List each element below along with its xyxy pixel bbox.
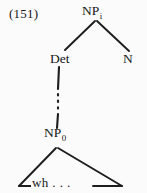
- tree-node-det: Det: [50, 52, 70, 66]
- tree-node-np-i: NPi: [82, 4, 102, 18]
- terminal-wh-label: wh . . .: [31, 176, 72, 189]
- branch-np-i-to-det: [65, 21, 95, 50]
- branch-det-to-np-0-upper-stem: [58, 67, 59, 89]
- tree-node-np-0-subscript: 0: [61, 133, 66, 143]
- tree-node-np-i-base: NP: [82, 3, 99, 18]
- tree-branch-lines: [0, 0, 147, 193]
- tree-node-np-0-base: NP: [44, 125, 61, 140]
- example-number: (151): [9, 7, 38, 20]
- branch-np-i-to-n: [97, 21, 129, 51]
- syntax-tree-figure: (151) NPi Det N NP0 wh . . .: [0, 0, 147, 193]
- tree-node-np-0: NP0: [44, 126, 66, 140]
- tree-node-n: N: [123, 52, 133, 66]
- tree-node-np-i-subscript: i: [99, 11, 102, 21]
